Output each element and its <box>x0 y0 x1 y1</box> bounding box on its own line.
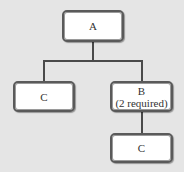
node-c-bottom: C <box>110 133 173 163</box>
node-b-label: B <box>138 85 145 97</box>
node-b-sublabel: (2 required) <box>115 97 167 109</box>
node-c-left-label: C <box>40 91 47 103</box>
node-a: A <box>62 10 124 42</box>
connector-b-to-c <box>141 111 143 133</box>
diagram-canvas: A C B (2 required) C <box>0 0 184 172</box>
connector-to-c-left <box>43 60 45 81</box>
node-c-left: C <box>13 81 75 112</box>
node-c-bottom-label: C <box>138 142 145 154</box>
node-b: B (2 required) <box>110 81 173 112</box>
node-a-label: A <box>89 20 97 32</box>
connector-horizontal <box>43 60 143 62</box>
connector-to-b <box>141 60 143 81</box>
connector-a-vertical <box>92 41 94 62</box>
